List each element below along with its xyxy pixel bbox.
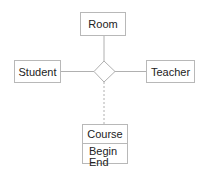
relationship-diamond[interactable] — [94, 61, 115, 82]
entity-label: Course — [83, 125, 127, 144]
entity-student[interactable]: Student — [14, 60, 61, 83]
entity-room[interactable]: Room — [80, 12, 126, 36]
entity-teacher[interactable]: Teacher — [146, 60, 195, 83]
entity-label: Student — [15, 66, 60, 78]
attribute-list: Begin End — [89, 146, 117, 168]
entity-label: Teacher — [147, 66, 194, 78]
entity-label: Room — [81, 18, 125, 30]
entity-course[interactable]: Course Begin End — [82, 124, 128, 164]
attribute-end: End — [89, 157, 117, 168]
